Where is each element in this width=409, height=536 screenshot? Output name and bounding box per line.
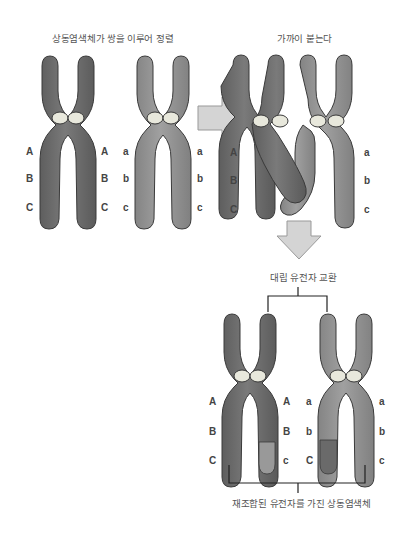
meiosis-crossing-over-diagram xyxy=(0,0,409,536)
gene-label: B xyxy=(283,426,290,437)
gene-label: C xyxy=(26,202,33,213)
gene-label: a xyxy=(123,146,129,157)
gene-label: c xyxy=(197,202,203,213)
caption-exchange: 대립 유전자 교환 xyxy=(270,270,336,284)
gene-label: C xyxy=(101,202,108,213)
gene-label: a xyxy=(364,147,370,158)
gene-label: b xyxy=(197,173,203,184)
gene-label: B xyxy=(101,173,108,184)
chromosome-recessive xyxy=(135,56,191,229)
gene-label: C xyxy=(306,455,313,466)
caption-result: 재조합된 유전자를 가진 상동염색체 xyxy=(232,496,371,510)
gene-label: a xyxy=(306,396,312,407)
gene-label: a xyxy=(379,396,385,407)
chromosome-dominant xyxy=(40,56,96,229)
gene-label: c xyxy=(123,202,129,213)
gene-label: B xyxy=(230,175,237,186)
caption-close: 가까이 붙는다 xyxy=(277,31,332,45)
gene-label: a xyxy=(197,146,203,157)
down-arrow-icon xyxy=(277,221,321,259)
gene-label: C xyxy=(209,455,216,466)
gene-label: c xyxy=(364,204,370,215)
gene-label: c xyxy=(283,455,289,466)
gene-label: C xyxy=(230,204,237,215)
synapsis-chromosomes xyxy=(219,55,354,228)
result-bracket xyxy=(229,465,365,493)
gene-label: b xyxy=(364,175,370,186)
gene-label: b xyxy=(306,426,312,437)
gene-label: A xyxy=(26,146,33,157)
gene-label: A xyxy=(230,147,237,158)
gene-label: b xyxy=(379,426,385,437)
gene-label: c xyxy=(379,455,385,466)
gene-label: B xyxy=(209,426,216,437)
recombined-chromosome-1 xyxy=(222,314,278,487)
exchange-bracket xyxy=(268,287,327,312)
gene-label: B xyxy=(26,173,33,184)
gene-label: A xyxy=(209,396,216,407)
gene-label: A xyxy=(101,146,108,157)
gene-label: b xyxy=(123,173,129,184)
recombined-chromosome-2 xyxy=(318,314,374,487)
caption-pairing: 상동염색체가 쌍을 이루어 정렬 xyxy=(52,31,173,45)
gene-label: A xyxy=(283,396,290,407)
